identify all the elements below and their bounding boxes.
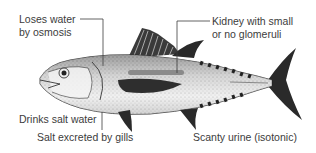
label-loses-water: Loses water by osmosis [19,13,76,38]
anal-fin [180,108,198,130]
pelvic-fin [118,110,132,132]
label-kidney-line2: or no glomeruli [212,28,293,40]
label-kidney-line1: Kidney with small [212,15,293,27]
label-kidney: Kidney with small or no glomeruli [212,15,293,40]
dorsal-fin-spiny [128,28,180,58]
label-loses-water-line1: Loses water [19,13,76,25]
label-salt-excreted: Salt excreted by gills [37,131,133,143]
label-scanty-urine: Scanty urine (isotonic) [193,131,297,143]
caudal-fin [268,48,302,120]
eye [59,68,69,78]
label-loses-water-line2: by osmosis [19,26,76,38]
label-drinks-salt-water: Drinks salt water [19,113,97,125]
kidney [128,70,184,75]
